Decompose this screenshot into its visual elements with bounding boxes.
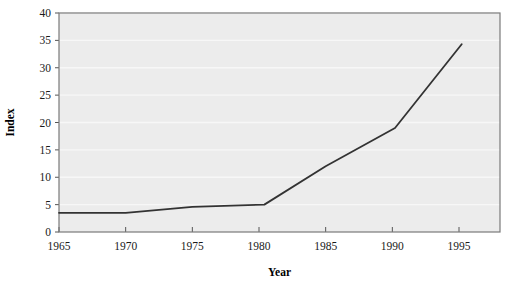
line-chart-figure: 0510152025303540 19651970197519801985199…	[0, 0, 515, 289]
y-axis-tick-label: 40	[40, 7, 52, 19]
x-axis-tick-label: 1970	[114, 240, 137, 252]
y-axis-title: Index	[4, 108, 16, 136]
y-axis-tick-label: 5	[45, 199, 51, 211]
y-axis-tick-label: 20	[40, 117, 52, 129]
y-axis-tick-label: 25	[40, 89, 52, 101]
x-axis-tick-label: 1980	[248, 240, 271, 252]
x-axis-tick-label: 1975	[181, 240, 204, 252]
y-axis-tick-label: 15	[40, 144, 52, 156]
chart-canvas: 0510152025303540 19651970197519801985199…	[0, 0, 515, 289]
x-axis-tick-label: 1990	[381, 240, 404, 252]
x-axis-tick-label: 1985	[314, 240, 337, 252]
x-axis-tick-label: 1995	[448, 240, 471, 252]
x-axis-tick-label: 1965	[48, 240, 71, 252]
x-axis-title: Year	[268, 266, 291, 278]
y-axis-tick-label: 35	[40, 34, 52, 46]
y-axis-tick-label: 10	[40, 171, 52, 183]
y-axis-tick-label: 30	[40, 62, 52, 74]
y-axis-tick-label: 0	[45, 226, 51, 238]
